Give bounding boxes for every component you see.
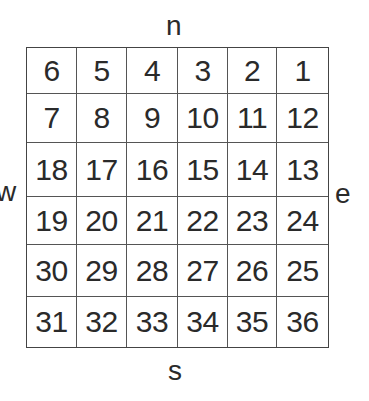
grid-cell: 18 bbox=[27, 143, 77, 197]
grid-cell: 8 bbox=[77, 94, 127, 143]
grid-cell: 12 bbox=[277, 94, 328, 143]
grid-cell: 7 bbox=[27, 94, 77, 143]
grid-cell: 1 bbox=[277, 48, 328, 94]
grid-cell: 31 bbox=[27, 297, 77, 347]
grid-cell: 27 bbox=[178, 245, 228, 297]
grid-cell: 29 bbox=[77, 245, 127, 297]
grid-cell: 6 bbox=[27, 48, 77, 94]
grid-cell: 32 bbox=[77, 297, 127, 347]
grid-cell: 24 bbox=[277, 197, 328, 245]
grid-cell: 33 bbox=[127, 297, 178, 347]
east-label: e bbox=[335, 180, 351, 208]
section-grid: 6 5 4 3 2 1 7 8 9 10 11 12 18 17 16 15 1… bbox=[26, 47, 329, 348]
grid-cell: 5 bbox=[77, 48, 127, 94]
grid-cell: 23 bbox=[228, 197, 277, 245]
grid-cell: 17 bbox=[77, 143, 127, 197]
grid-cell: 20 bbox=[77, 197, 127, 245]
grid-cell: 13 bbox=[277, 143, 328, 197]
grid-cell: 26 bbox=[228, 245, 277, 297]
north-label: n bbox=[166, 12, 182, 40]
grid-cell: 19 bbox=[27, 197, 77, 245]
grid-cell: 35 bbox=[228, 297, 277, 347]
grid-cell: 25 bbox=[277, 245, 328, 297]
grid-cell: 3 bbox=[178, 48, 228, 94]
grid-cell: 2 bbox=[228, 48, 277, 94]
grid-cell: 28 bbox=[127, 245, 178, 297]
grid-cell: 9 bbox=[127, 94, 178, 143]
grid-cell: 36 bbox=[277, 297, 328, 347]
grid-cell: 16 bbox=[127, 143, 178, 197]
grid-cell: 4 bbox=[127, 48, 178, 94]
west-label: w bbox=[0, 178, 16, 206]
grid-cell: 11 bbox=[228, 94, 277, 143]
grid-cell: 34 bbox=[178, 297, 228, 347]
grid-cell: 21 bbox=[127, 197, 178, 245]
grid-cell: 30 bbox=[27, 245, 77, 297]
south-label: s bbox=[168, 357, 182, 385]
grid-cell: 22 bbox=[178, 197, 228, 245]
grid-cell: 10 bbox=[178, 94, 228, 143]
grid-cell: 14 bbox=[228, 143, 277, 197]
grid-cell: 15 bbox=[178, 143, 228, 197]
